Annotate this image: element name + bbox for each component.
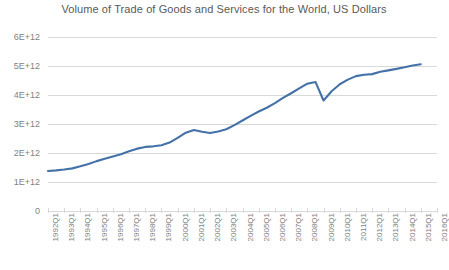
x-tick-label: 1994Q1 (83, 213, 92, 241)
x-tick-mark (145, 208, 146, 213)
x-tick-mark (340, 208, 341, 213)
x-tick-label: 2011Q1 (359, 213, 368, 241)
y-tick-label: 1E+12 (14, 177, 40, 187)
x-tick-label: 2013Q1 (391, 213, 400, 241)
y-axis: 01E+122E+123E+124E+125E+126E+12 (0, 0, 44, 270)
x-tick-mark (259, 208, 260, 213)
y-tick-label: 0 (35, 206, 40, 216)
x-tick-mark (437, 208, 438, 213)
x-tick-mark (372, 208, 373, 213)
plot-area (48, 37, 437, 211)
x-tick-label: 2009Q1 (327, 213, 336, 241)
x-tick-label: 2002Q1 (213, 213, 222, 241)
x-tick-label: 2004Q1 (246, 213, 255, 241)
x-tick-mark (64, 208, 65, 213)
x-tick-mark (161, 208, 162, 213)
y-tick-label: 4E+12 (14, 90, 40, 100)
x-tick-label: 2014Q1 (408, 213, 417, 241)
x-tick-label: 1999Q1 (164, 213, 173, 241)
x-tick-mark (275, 208, 276, 213)
x-tick-label: 1992Q1 (51, 213, 60, 241)
x-tick-label: 1993Q1 (67, 213, 76, 241)
x-tick-label: 1996Q1 (116, 213, 125, 241)
x-tick-label: 2003Q1 (229, 213, 238, 241)
x-tick-label: 2001Q1 (197, 213, 206, 241)
chart-title: Volume of Trade of Goods and Services fo… (0, 3, 448, 15)
x-tick-mark (97, 208, 98, 213)
x-tick-mark (421, 208, 422, 213)
x-tick-label: 2008Q1 (310, 213, 319, 241)
series-line (48, 37, 437, 211)
x-tick-mark (291, 208, 292, 213)
x-tick-label: 2016Q1 (440, 213, 449, 241)
x-tick-mark (178, 208, 179, 213)
x-tick-mark (210, 208, 211, 213)
x-tick-mark (405, 208, 406, 213)
x-tick-mark (324, 208, 325, 213)
x-axis: 1992Q11993Q11994Q11995Q11996Q11997Q11998… (48, 213, 437, 270)
x-tick-mark (356, 208, 357, 213)
x-tick-mark (226, 208, 227, 213)
y-tick-label: 3E+12 (14, 119, 40, 129)
x-tick-mark (113, 208, 114, 213)
x-tick-mark (48, 208, 49, 213)
x-tick-mark (194, 208, 195, 213)
x-tick-mark (307, 208, 308, 213)
x-tick-mark (388, 208, 389, 213)
x-tick-label: 2015Q1 (424, 213, 433, 241)
x-tick-label: 2006Q1 (278, 213, 287, 241)
x-tick-mark (243, 208, 244, 213)
y-tick-label: 2E+12 (14, 148, 40, 158)
x-tick-label: 1997Q1 (132, 213, 141, 241)
y-tick-label: 6E+12 (14, 32, 40, 42)
x-tick-mark (80, 208, 81, 213)
x-tick-label: 2000Q1 (181, 213, 190, 241)
x-tick-label: 2007Q1 (294, 213, 303, 241)
x-tick-label: 2010Q1 (343, 213, 352, 241)
x-tick-label: 2012Q1 (375, 213, 384, 241)
x-tick-label: 1998Q1 (148, 213, 157, 241)
y-tick-label: 5E+12 (14, 61, 40, 71)
x-tick-label: 1995Q1 (100, 213, 109, 241)
x-tick-mark (129, 208, 130, 213)
x-tick-label: 2005Q1 (262, 213, 271, 241)
